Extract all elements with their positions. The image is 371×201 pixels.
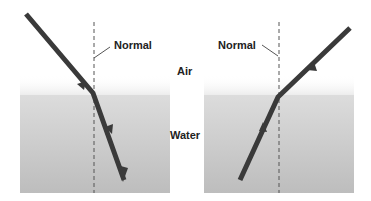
water-label: Water (170, 129, 200, 141)
normal-leader-line (262, 45, 278, 56)
water-region (20, 95, 170, 193)
refraction-diagram (0, 0, 371, 201)
air-label: Air (177, 65, 192, 77)
normal-leader-line (94, 47, 110, 58)
normal-label-left: Normal (114, 39, 152, 51)
normal-label-right: Normal (218, 39, 256, 51)
